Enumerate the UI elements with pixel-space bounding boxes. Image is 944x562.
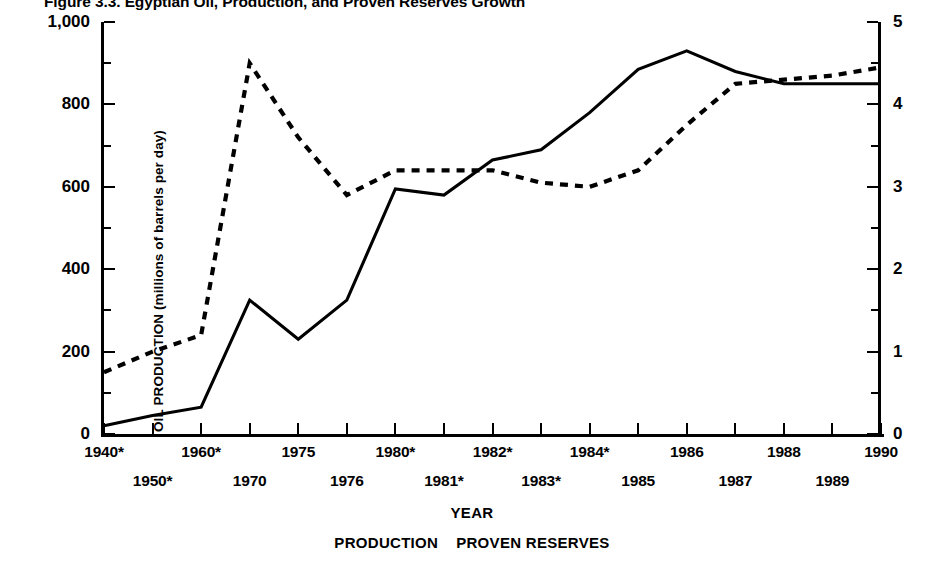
figure-title: Figure 3.3. Egyptian Oil, Production, an… (44, 0, 525, 11)
y-axis-left-tick-label: 400 (62, 260, 90, 277)
figure-container: Figure 3.3. Egyptian Oil, Production, an… (0, 0, 944, 562)
x-axis-tick-label: 1950* (133, 472, 173, 490)
y-axis-right-tick-label: 5 (893, 13, 902, 30)
x-axis-tick-label: 1940* (84, 443, 124, 461)
y-axis-left-tick-label: 200 (62, 343, 90, 360)
x-axis-tick-label: 1986 (670, 443, 704, 461)
x-axis-tick-label: 1970 (233, 472, 267, 490)
y-axis-right-tick-label: 3 (893, 178, 902, 195)
x-axis-tick-label: 1976 (330, 472, 364, 490)
y-axis-right-tick-label: 2 (893, 260, 902, 277)
x-axis-title: YEAR (0, 504, 944, 521)
plot-area: 02004006008001,000 012345 (101, 22, 881, 437)
proven-reserves-line (104, 63, 881, 372)
x-axis-tick-label: 1980* (376, 443, 416, 461)
y-axis-left-tick-label: 1,000 (47, 13, 90, 30)
y-axis-right-tick-label: 4 (893, 95, 902, 112)
x-axis-tick-label: 1989 (816, 472, 850, 490)
x-axis-tick-label: 1984* (570, 443, 610, 461)
y-axis-right-tick-label: 0 (893, 425, 902, 442)
y-axis-left-tick-label: 0 (81, 425, 90, 442)
x-axis-tick-label: 1990 (864, 443, 898, 461)
x-axis-tick-label: 1960* (181, 443, 221, 461)
x-axis-tick-label: 1987 (718, 472, 752, 490)
x-axis-tick-label: 1981* (424, 472, 464, 490)
x-axis-tick-label: 1983* (521, 472, 561, 490)
x-axis-tick-label: 1985 (621, 472, 655, 490)
y-axis-right-tick-label: 1 (893, 343, 902, 360)
legend-item-production: PRODUCTION (334, 534, 438, 551)
y-axis-left-tick-label: 800 (62, 95, 90, 112)
legend: PRODUCTIONPROVEN RESERVES (0, 534, 944, 551)
x-axis-tick-label: 1975 (281, 443, 315, 461)
series-plot-layer (101, 22, 884, 437)
x-axis-tick-label: 1982* (473, 443, 513, 461)
x-axis-tick-label: 1988 (767, 443, 801, 461)
y-axis-left-tick-label: 600 (62, 178, 90, 195)
legend-item-proven-reserves: PROVEN RESERVES (456, 534, 609, 551)
